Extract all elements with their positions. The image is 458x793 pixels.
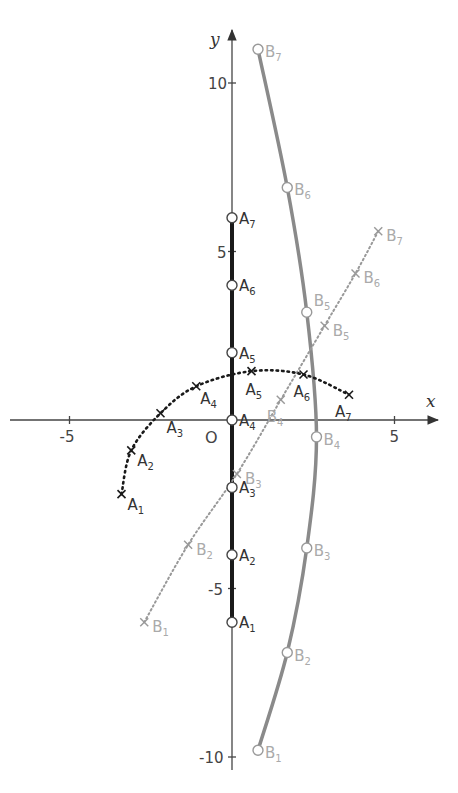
- b-line-point-marker: [140, 618, 148, 626]
- x-tick-label: -5: [60, 428, 75, 446]
- b-line-point-label: B5: [333, 322, 350, 342]
- b-dotted-line: [144, 231, 378, 622]
- b-curve-point-label: B3: [314, 542, 331, 562]
- b-curve-point-marker: [282, 648, 292, 658]
- b-curve-point-marker: [253, 745, 263, 755]
- a-arc-point-label: A6: [294, 383, 311, 403]
- a-arc-point-marker: [157, 409, 165, 417]
- y-tick-label: -10: [199, 749, 224, 767]
- b-curve-point-label: B2: [294, 647, 311, 667]
- b-curve-point-marker: [282, 182, 292, 192]
- a-axis-point-label: A5: [239, 345, 256, 365]
- b-line-point-label: B2: [196, 541, 213, 561]
- y-tick-label: -5: [208, 581, 223, 599]
- b-curve-point-marker: [253, 44, 263, 54]
- x-tick-label: 5: [390, 428, 400, 446]
- a-axis-point-marker: [227, 280, 237, 290]
- plot-canvas: x y O -55105-5-10 A1A2A3A4A5A6A7A1A2A3A4…: [0, 0, 458, 793]
- b-curve-point-label: B5: [314, 292, 331, 312]
- b-curve-point-marker: [302, 307, 312, 317]
- x-axis-label: x: [426, 391, 436, 411]
- points-layer: A1A2A3A4A5A6A7A1A2A3A4A5A6A7B1B2B3B4B5B6…: [118, 43, 403, 764]
- coordinate-diagram: x y O -55105-5-10 A1A2A3A4A5A6A7A1A2A3A4…: [0, 0, 458, 793]
- a-arc-point-marker: [192, 382, 200, 390]
- b-line-point-label: B3: [245, 470, 262, 490]
- a-axis-point-marker: [227, 550, 237, 560]
- y-axis-label: y: [209, 29, 220, 49]
- a-arc-point-label: A4: [200, 390, 217, 410]
- b-line-point-label: B4: [267, 408, 284, 428]
- b-line-point-marker: [374, 227, 382, 235]
- a-axis-point-label: A1: [239, 614, 256, 634]
- b-curve-point-marker: [302, 543, 312, 553]
- a-arc-point-marker: [127, 446, 135, 454]
- b-line-point-label: B6: [364, 269, 381, 289]
- b-curve-point-label: B4: [324, 431, 341, 451]
- a-axis-point-label: A7: [239, 210, 256, 230]
- axes: x y O -55105-5-10: [10, 29, 438, 770]
- b-line-point-label: B7: [386, 227, 403, 247]
- b-curve-point-marker: [312, 432, 322, 442]
- a-arc-point-label: A1: [128, 496, 145, 516]
- b-line-point-marker: [184, 541, 192, 549]
- y-tick-label: 5: [217, 244, 227, 262]
- a-arc-point-marker: [345, 391, 353, 399]
- a-arc-point-label: A5: [246, 381, 263, 401]
- a-axis-point-label: A6: [239, 277, 256, 297]
- a-arc-point-label: A2: [137, 452, 154, 472]
- b-curve-point-label: B7: [265, 43, 282, 63]
- b-line-point-marker: [352, 269, 360, 277]
- a-axis-point-marker: [227, 213, 237, 223]
- b-line-point-marker: [321, 322, 329, 330]
- a-arc-point-label: A7: [335, 403, 352, 423]
- a-axis-point-marker: [227, 617, 237, 627]
- b-line-point-marker: [233, 470, 241, 478]
- a-arc-point-marker: [118, 490, 126, 498]
- b-line-point-marker: [277, 396, 285, 404]
- a-arc-point-label: A3: [167, 419, 184, 439]
- y-tick-label: 10: [208, 75, 227, 93]
- b-curve-point-label: B6: [294, 181, 311, 201]
- a-axis-point-label: A2: [239, 547, 256, 567]
- a-axis-point-marker: [227, 348, 237, 358]
- a-axis-point-marker: [227, 415, 237, 425]
- a-axis-point-label: A4: [239, 412, 256, 432]
- a-axis-point-marker: [227, 482, 237, 492]
- b-line-point-label: B1: [152, 618, 169, 638]
- b-curve-point-label: B1: [265, 744, 282, 764]
- origin-label: O: [205, 428, 218, 447]
